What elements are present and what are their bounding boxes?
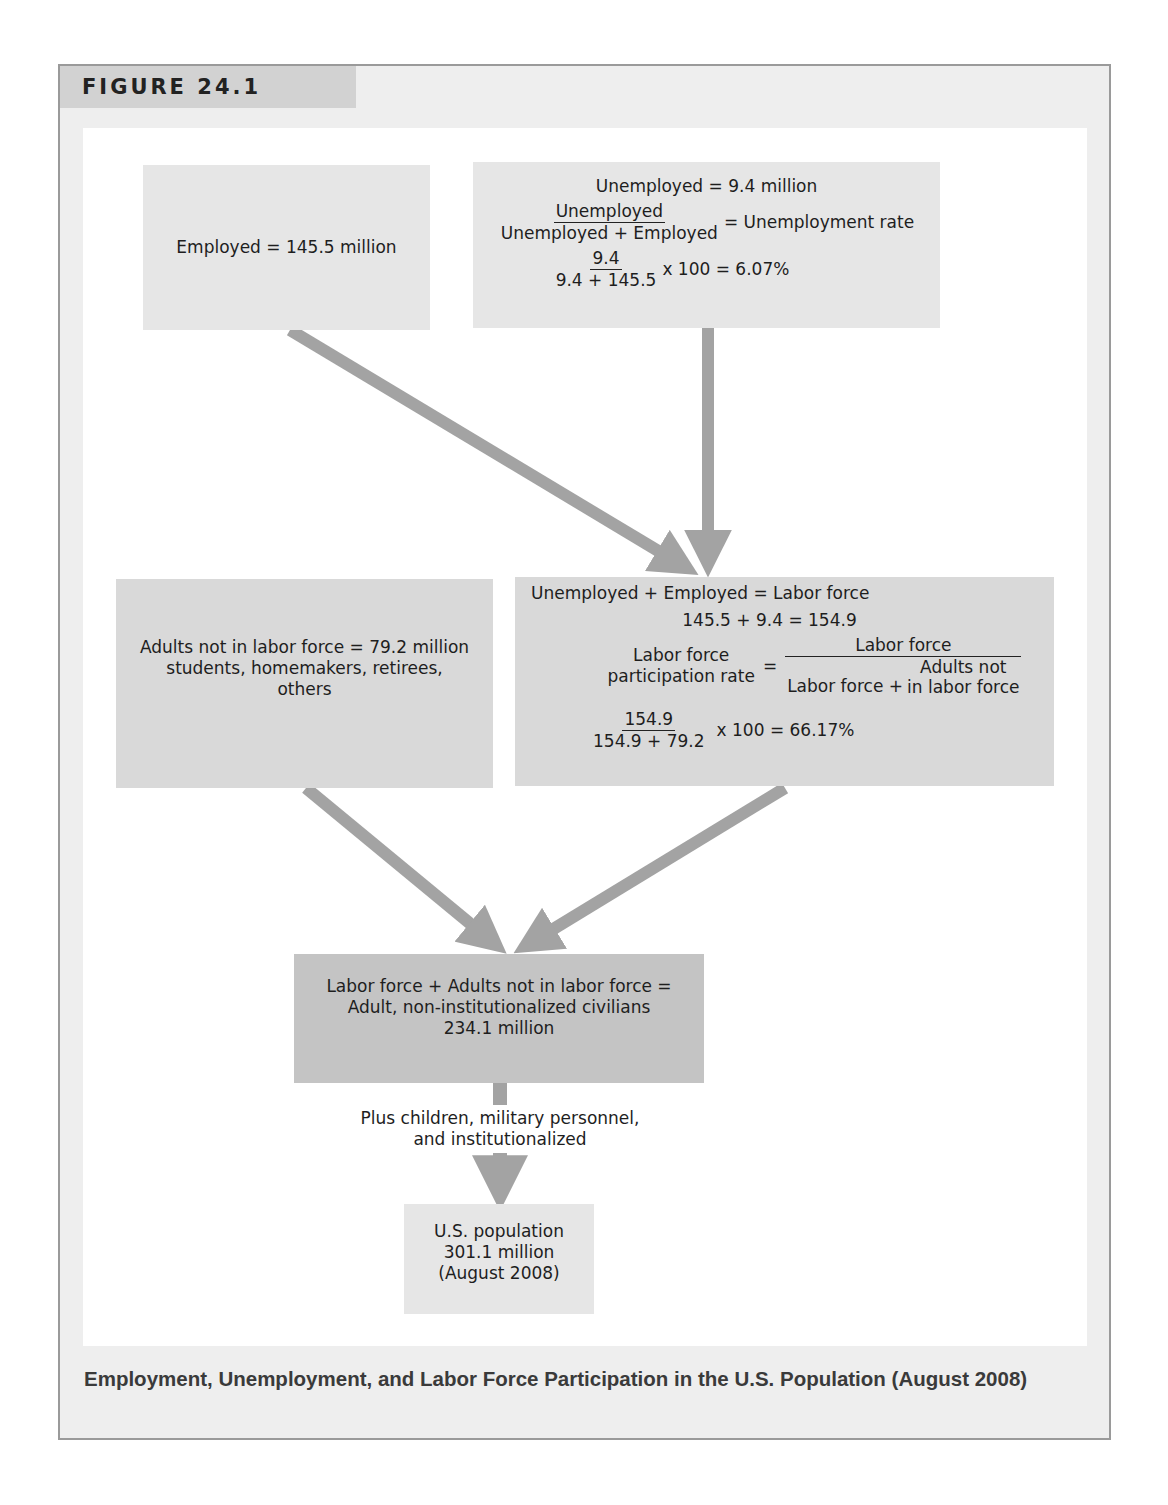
labor-force-box: Unemployed + Employed = Labor force 145.… (515, 577, 1054, 786)
labor-force-sum: 145.5 + 9.4 = 154.9 (485, 610, 1054, 631)
civilians-box: Labor force + Adults not in labor force … (294, 954, 704, 1083)
arrow-labor-force-to-civilians (532, 788, 785, 942)
unemployment-calc-fraction: 9.4 9.4 + 145.5 (554, 248, 659, 291)
labor-force-title: Unemployed + Employed = Labor force (515, 583, 1054, 604)
unemployment-fraction: Unemployed Unemployed + Employed (499, 201, 720, 244)
participation-rate-calc: 154.9 154.9 + 79.2 x 100 = 66.17% (515, 709, 1054, 752)
participation-calc-fraction: 154.9 154.9 + 79.2 (591, 709, 707, 752)
us-population-box: U.S. population 301.1 million (August 20… (404, 1204, 594, 1314)
participation-fraction: Labor force Labor force + Adults not in … (785, 635, 1021, 697)
arrow-employed-to-labor-force (290, 330, 680, 564)
not-in-labor-force-box: Adults not in labor force = 79.2 million… (116, 579, 493, 788)
arrow-not-in-lf-to-civilians (306, 788, 490, 940)
employed-box: Employed = 145.5 million (143, 165, 430, 330)
unemployed-box: Unemployed = 9.4 million Unemployed Unem… (473, 162, 940, 328)
arrow-civilians-to-note (493, 1083, 507, 1105)
employed-text: Employed = 145.5 million (176, 237, 396, 258)
additional-population-note: Plus children, military personnel, and i… (320, 1108, 680, 1150)
participation-rate-formula: Labor force participation rate = Labor f… (575, 635, 1054, 697)
unemployed-title: Unemployed = 9.4 million (473, 176, 940, 197)
unemployment-rate-calc: 9.4 9.4 + 145.5 x 100 = 6.07% (403, 248, 940, 291)
participation-rate-label: Labor force participation rate (608, 645, 755, 687)
unemployment-rate-formula: Unemployed Unemployed + Employed = Unemp… (473, 201, 940, 244)
